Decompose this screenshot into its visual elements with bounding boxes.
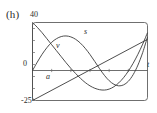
figure-panel: (h) 40 0 -25 s v a t bbox=[0, 0, 157, 113]
curve-s-path bbox=[33, 36, 148, 86]
plot-area bbox=[0, 0, 157, 113]
plot-frame bbox=[33, 23, 148, 101]
curve-a-path bbox=[33, 39, 148, 100]
curve-v-path bbox=[33, 23, 148, 91]
